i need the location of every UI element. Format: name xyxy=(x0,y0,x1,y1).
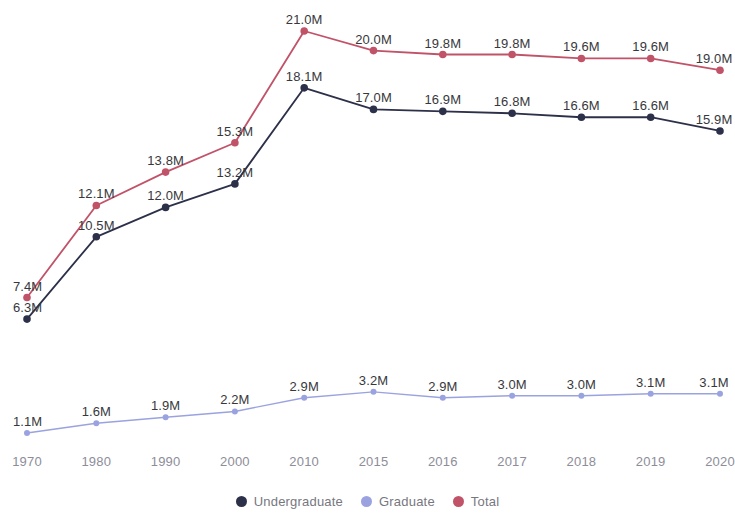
data-point-graduate-2010[interactable] xyxy=(301,395,307,401)
x-axis-tick-2020: 2020 xyxy=(705,454,735,469)
data-point-total-2010[interactable] xyxy=(300,27,308,35)
data-point-graduate-2000[interactable] xyxy=(232,408,238,414)
data-point-graduate-2020[interactable] xyxy=(717,391,723,397)
data-point-undergraduate-1980[interactable] xyxy=(93,233,101,241)
data-point-total-2015[interactable] xyxy=(370,47,378,55)
x-axis-tick-2010: 2010 xyxy=(289,454,319,469)
data-point-total-2017[interactable] xyxy=(508,51,516,59)
data-point-undergraduate-2015[interactable] xyxy=(370,106,378,114)
data-point-graduate-2019[interactable] xyxy=(648,391,654,397)
data-point-undergraduate-2017[interactable] xyxy=(508,110,516,118)
series-line-graduate xyxy=(27,392,720,433)
legend-label-undergraduate: Undergraduate xyxy=(254,494,343,509)
x-axis-tick-2000: 2000 xyxy=(220,454,250,469)
series-points-group xyxy=(23,27,724,436)
data-point-undergraduate-2018[interactable] xyxy=(578,113,586,121)
data-point-graduate-1970[interactable] xyxy=(24,430,30,436)
legend-label-graduate: Graduate xyxy=(379,494,435,509)
data-point-undergraduate-1970[interactable] xyxy=(23,315,31,323)
legend-swatch-undergraduate-icon xyxy=(236,496,247,507)
enrollment-line-chart: 6.3M10.5M12.0M13.2M18.1M17.0M16.9M16.8M1… xyxy=(0,0,735,519)
data-point-total-2020[interactable] xyxy=(716,66,724,74)
series-line-total xyxy=(27,31,720,298)
x-axis-tick-2018: 2018 xyxy=(567,454,597,469)
data-point-undergraduate-2000[interactable] xyxy=(231,180,239,188)
x-axis-tick-2015: 2015 xyxy=(359,454,389,469)
data-point-graduate-2017[interactable] xyxy=(509,393,515,399)
chart-plot-area xyxy=(0,0,735,519)
data-point-graduate-2018[interactable] xyxy=(578,393,584,399)
series-lines-group xyxy=(27,31,720,433)
x-axis-tick-1980: 1980 xyxy=(81,454,111,469)
legend-item-undergraduate[interactable]: Undergraduate xyxy=(236,494,343,509)
legend-label-total: Total xyxy=(471,494,499,509)
legend-swatch-graduate-icon xyxy=(361,496,372,507)
x-axis-tick-1990: 1990 xyxy=(151,454,181,469)
legend-item-graduate[interactable]: Graduate xyxy=(361,494,435,509)
data-point-total-1970[interactable] xyxy=(23,294,31,302)
data-point-undergraduate-2016[interactable] xyxy=(439,108,447,116)
data-point-total-1980[interactable] xyxy=(93,202,101,210)
legend-item-total[interactable]: Total xyxy=(453,494,499,509)
data-point-undergraduate-1990[interactable] xyxy=(162,204,170,212)
chart-legend: UndergraduateGraduateTotal xyxy=(0,494,735,509)
x-axis-tick-1970: 1970 xyxy=(12,454,42,469)
data-point-total-2000[interactable] xyxy=(231,139,239,147)
data-point-total-2019[interactable] xyxy=(647,55,655,63)
data-point-undergraduate-2019[interactable] xyxy=(647,113,655,121)
series-line-undergraduate xyxy=(27,88,720,319)
data-point-graduate-2015[interactable] xyxy=(371,389,377,395)
data-point-graduate-2016[interactable] xyxy=(440,395,446,401)
x-axis-tick-2019: 2019 xyxy=(636,454,666,469)
legend-swatch-total-icon xyxy=(453,496,464,507)
x-axis-tick-2017: 2017 xyxy=(497,454,527,469)
data-point-graduate-1990[interactable] xyxy=(163,414,169,420)
data-point-undergraduate-2010[interactable] xyxy=(300,84,308,92)
data-point-total-2016[interactable] xyxy=(439,51,447,59)
data-point-graduate-1980[interactable] xyxy=(93,420,99,426)
data-point-total-1990[interactable] xyxy=(162,168,170,176)
data-point-total-2018[interactable] xyxy=(578,55,586,63)
x-axis-tick-2016: 2016 xyxy=(428,454,458,469)
data-point-undergraduate-2020[interactable] xyxy=(716,127,724,135)
